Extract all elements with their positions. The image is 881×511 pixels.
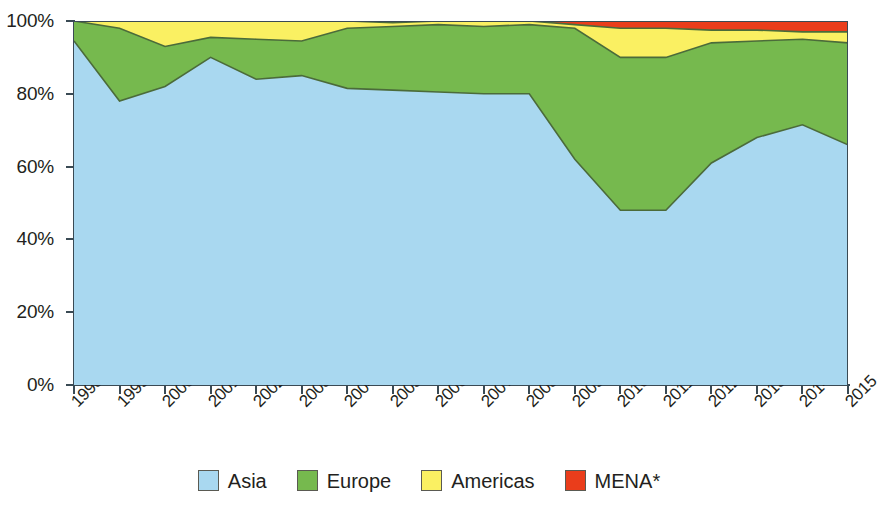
legend-label: MENA* [595,471,661,491]
y-axis: 100%80%60%40%20%0% [0,0,66,406]
legend-swatch-icon [297,470,318,491]
area-series-group [74,21,848,385]
y-axis-tick-label: 100% [6,11,54,30]
legend-swatch-icon [421,470,442,491]
legend-item-americas[interactable]: Americas [421,470,534,491]
y-axis-tick-label: 80% [17,84,54,103]
plot-area [74,21,848,385]
y-axis-tick-label: 60% [17,157,54,176]
y-axis-tick-label: 0% [27,375,54,394]
legend-item-asia[interactable]: Asia [198,470,267,491]
legend-item-europe[interactable]: Europe [297,470,392,491]
y-axis-tick-label: 40% [17,229,54,248]
legend-swatch-icon [198,470,219,491]
y-axis-tick-label: 20% [17,302,54,321]
legend-swatch-icon [565,470,586,491]
legend-label: Americas [451,471,534,491]
legend-label: Asia [228,471,267,491]
chart-legend: AsiaEuropeAmericasMENA* [0,470,858,491]
legend-label: Europe [327,471,392,491]
legend-item-mena[interactable]: MENA* [565,470,661,491]
